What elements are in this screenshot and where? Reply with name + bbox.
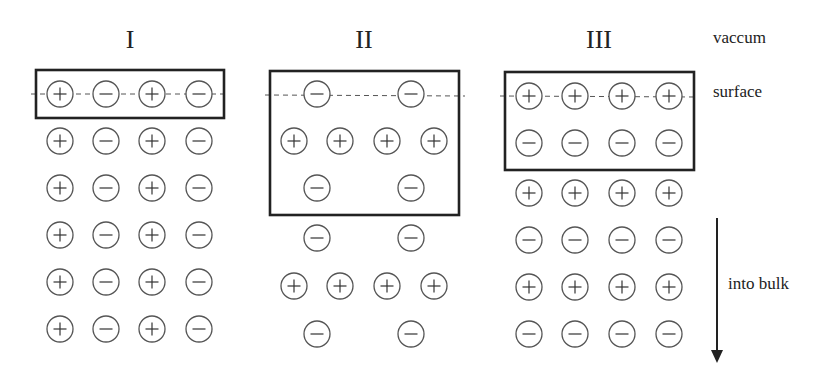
- cation-icon: [421, 128, 447, 154]
- cation-icon: [281, 273, 307, 299]
- anion-icon: [93, 269, 119, 295]
- cation-icon: [562, 180, 588, 206]
- anion-icon: [186, 316, 212, 342]
- cation-icon: [609, 83, 635, 109]
- cation-icon: [139, 81, 165, 107]
- cation-icon: [139, 269, 165, 295]
- cation-icon: [562, 274, 588, 300]
- anion-icon: [656, 130, 682, 156]
- cation-icon: [327, 273, 353, 299]
- cation-icon: [656, 180, 682, 206]
- anion-icon: [398, 321, 424, 347]
- anion-icon: [516, 227, 542, 253]
- cation-icon: [516, 180, 542, 206]
- surface-lines: [31, 94, 697, 97]
- cation-icon: [327, 128, 353, 154]
- cation-icon: [609, 274, 635, 300]
- cation-icon: [47, 269, 73, 295]
- anion-icon: [186, 175, 212, 201]
- surface-label: surface: [713, 82, 762, 101]
- anion-icon: [562, 227, 588, 253]
- ionic-surface-diagram: I II III vaccum surface into bulk: [0, 0, 840, 381]
- cation-icon: [139, 128, 165, 154]
- anion-icon: [93, 81, 119, 107]
- into-bulk-label: into bulk: [728, 274, 789, 293]
- cation-icon: [47, 316, 73, 342]
- anion-icon: [93, 128, 119, 154]
- panel-title-i: I: [126, 25, 135, 54]
- cation-icon: [139, 175, 165, 201]
- anion-icon: [186, 128, 212, 154]
- anion-icon: [304, 175, 330, 201]
- cation-icon: [516, 274, 542, 300]
- anion-icon: [304, 225, 330, 251]
- anion-icon: [398, 81, 424, 107]
- panel-title-ii: II: [355, 25, 372, 54]
- cation-icon: [139, 222, 165, 248]
- anion-icon: [562, 130, 588, 156]
- cation-icon: [47, 128, 73, 154]
- cation-icon: [656, 274, 682, 300]
- cation-icon: [139, 316, 165, 342]
- cation-icon: [609, 180, 635, 206]
- anion-icon: [609, 130, 635, 156]
- surface-line-ii: [265, 95, 465, 96]
- anion-icon: [93, 175, 119, 201]
- cation-icon: [656, 83, 682, 109]
- anion-icon: [516, 321, 542, 347]
- anion-icon: [186, 269, 212, 295]
- anion-icon: [304, 321, 330, 347]
- anion-icon: [93, 222, 119, 248]
- anion-icon: [398, 225, 424, 251]
- cation-icon: [562, 83, 588, 109]
- anion-icon: [656, 321, 682, 347]
- cation-icon: [47, 175, 73, 201]
- anion-icon: [562, 321, 588, 347]
- anion-icon: [93, 316, 119, 342]
- cation-icon: [374, 273, 400, 299]
- anion-icon: [304, 81, 330, 107]
- anion-icon: [656, 227, 682, 253]
- into-bulk-arrow-icon: [711, 218, 723, 363]
- anion-icon: [186, 222, 212, 248]
- cation-icon: [421, 273, 447, 299]
- panel-title-iii: III: [586, 25, 612, 54]
- anion-icon: [398, 175, 424, 201]
- cation-icon: [47, 222, 73, 248]
- anion-icon: [516, 130, 542, 156]
- anion-icon: [609, 227, 635, 253]
- cation-icon: [374, 128, 400, 154]
- anion-icon: [609, 321, 635, 347]
- cation-icon: [281, 128, 307, 154]
- anion-icon: [186, 81, 212, 107]
- vacuum-label: vaccum: [713, 28, 766, 47]
- cation-icon: [47, 81, 73, 107]
- cation-icon: [516, 83, 542, 109]
